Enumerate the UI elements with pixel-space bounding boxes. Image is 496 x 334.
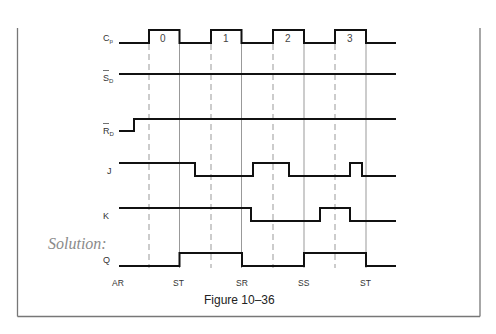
clock-pulse-number: 1 <box>223 33 229 44</box>
signal-q <box>119 253 396 266</box>
clock-pulse-number: 0 <box>160 33 166 44</box>
figure-frame <box>18 28 481 317</box>
signal-label-cp: Cp <box>103 33 114 44</box>
timing-diagram: 0 1 2 3 Cp SD RD J K Q Solution: AR ST S… <box>0 0 496 334</box>
state-label: ST <box>173 278 184 288</box>
signal-label-q: Q <box>103 255 110 265</box>
figure-caption: Figure 10–36 <box>204 293 275 307</box>
svg-text:RD: RD <box>103 126 115 137</box>
clock-guide-lines <box>149 44 366 268</box>
solution-label: Solution: <box>48 235 107 252</box>
signal-rd <box>119 119 396 131</box>
state-label: ST <box>360 278 371 288</box>
signal-label-k: K <box>103 211 109 221</box>
svg-text:Cp: Cp <box>103 33 114 44</box>
state-label: AR <box>112 278 124 288</box>
state-label: SR <box>236 278 248 288</box>
signal-label-j: J <box>107 166 112 176</box>
clock-pulse-number: 2 <box>285 33 291 44</box>
signal-label-sd: SD <box>103 71 114 85</box>
state-label: SS <box>298 278 310 288</box>
svg-text:SD: SD <box>103 73 114 84</box>
clock-pulse-number: 3 <box>347 33 353 44</box>
signal-k <box>119 208 396 221</box>
signal-cp: 0 1 2 3 <box>119 30 396 44</box>
signal-label-rd: RD <box>103 124 115 138</box>
signal-j <box>119 163 396 176</box>
